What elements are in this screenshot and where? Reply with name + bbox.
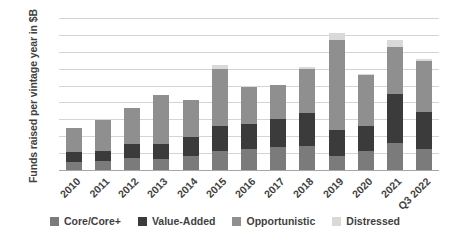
bar-stack[interactable]	[95, 120, 111, 170]
legend-item[interactable]: Value-Added	[138, 215, 216, 227]
legend-item[interactable]: Core/Core+	[50, 215, 121, 227]
legend-item[interactable]: Distressed	[332, 215, 400, 227]
x-axis-tick: 2014	[176, 171, 205, 209]
bar-segment	[416, 149, 432, 170]
bar-segment	[66, 128, 82, 152]
bar-segment	[66, 162, 82, 170]
bar-column	[410, 18, 439, 170]
legend-swatch-icon	[50, 217, 59, 226]
x-axis-tick-label: 2013	[145, 175, 170, 200]
x-axis-tick: 2012	[117, 171, 146, 209]
bar-column	[293, 18, 322, 170]
bar-segment	[124, 144, 140, 158]
x-axis-tick: 2020	[351, 171, 380, 209]
bar-segment	[153, 159, 169, 170]
bar-segment	[387, 47, 403, 94]
bar-segment	[183, 156, 199, 170]
y-axis-title: Funds raised per vintage year in $B	[27, 13, 39, 183]
bar-stack[interactable]	[66, 128, 82, 170]
bar-segment	[212, 126, 228, 151]
bar-stack[interactable]	[241, 86, 257, 170]
x-axis-tick: 2011	[88, 171, 117, 209]
bar-column	[381, 18, 410, 170]
x-axis-tick: 2019	[322, 171, 351, 209]
bar-segment	[299, 69, 315, 114]
legend-item[interactable]: Opportunistic	[232, 215, 315, 227]
bar-column	[264, 18, 293, 170]
bar-segment	[241, 124, 257, 149]
legend-swatch-icon	[138, 217, 147, 226]
bar-segment	[387, 143, 403, 170]
bar-segment	[387, 40, 403, 47]
bar-segment	[270, 147, 286, 170]
x-axis-tick: 2010	[59, 171, 88, 209]
bar-segment	[95, 151, 111, 160]
x-axis-tick-labels: 2010201120122013201420152016201720182019…	[59, 171, 439, 209]
legend-item-label: Opportunistic	[246, 215, 315, 227]
bar-stack[interactable]	[329, 33, 345, 170]
legend-item-label: Core/Core+	[64, 215, 121, 227]
bar-column	[205, 18, 234, 170]
bar-segment	[329, 156, 345, 170]
x-axis-tick-label: 2015	[203, 175, 228, 200]
bar-column	[322, 18, 351, 170]
bar-segment	[124, 158, 140, 170]
plot-area: 020406080100120140160180	[59, 18, 439, 170]
bar-segment	[299, 113, 315, 146]
bar-stack[interactable]	[299, 67, 315, 170]
bar-column	[351, 18, 380, 170]
bar-segment	[416, 61, 432, 112]
bar-segment	[183, 100, 199, 137]
bar-segment	[416, 112, 432, 149]
x-axis-tick-label: 2011	[87, 175, 112, 200]
bar-segment	[183, 137, 199, 156]
x-axis-tick: 2015	[205, 171, 234, 209]
x-axis-tick: 2018	[293, 171, 322, 209]
x-axis-tick: Q3 2022	[410, 171, 439, 209]
bar-segment	[329, 130, 345, 155]
bar-column	[88, 18, 117, 170]
bar-stack[interactable]	[416, 59, 432, 170]
x-axis-tick-label: 2019	[320, 175, 345, 200]
stacked-bar-chart: Funds raised per vintage year in $B 0204…	[0, 0, 450, 241]
bar-segment	[241, 149, 257, 170]
bar-stack[interactable]	[387, 40, 403, 170]
x-axis-tick-label: 2021	[379, 175, 404, 200]
bar-segment	[358, 75, 374, 126]
bar-stack[interactable]	[212, 65, 228, 170]
bar-stack[interactable]	[124, 108, 140, 170]
bar-segment	[358, 126, 374, 150]
x-axis-tick-label: 2012	[116, 175, 141, 200]
x-axis-tick-label: 2014	[174, 175, 199, 200]
bar-column	[176, 18, 205, 170]
bar-column	[147, 18, 176, 170]
x-axis-tick: 2016	[234, 171, 263, 209]
bar-segment	[329, 33, 345, 40]
bar-segment	[153, 95, 169, 144]
legend-swatch-icon	[332, 217, 341, 226]
bar-segment	[212, 151, 228, 170]
bar-series-group	[59, 18, 439, 170]
bar-segment	[358, 151, 374, 170]
bar-stack[interactable]	[153, 95, 169, 170]
bar-stack[interactable]	[183, 100, 199, 170]
bar-segment	[299, 146, 315, 170]
bar-segment	[212, 69, 228, 126]
x-axis-tick-label: 2017	[262, 175, 287, 200]
bar-column	[59, 18, 88, 170]
bar-segment	[270, 119, 286, 148]
x-axis-tick: 2017	[264, 171, 293, 209]
bar-stack[interactable]	[270, 85, 286, 170]
chart-legend: Core/Core+Value-AddedOpportunisticDistre…	[0, 215, 450, 227]
bar-segment	[387, 94, 403, 143]
bar-column	[234, 18, 263, 170]
x-axis-tick: 2013	[147, 171, 176, 209]
bar-segment	[66, 152, 82, 161]
legend-swatch-icon	[232, 217, 241, 226]
bar-segment	[124, 108, 140, 143]
legend-item-label: Value-Added	[152, 215, 216, 227]
bar-segment	[95, 120, 111, 151]
legend-item-label: Distressed	[346, 215, 400, 227]
x-axis-tick-label: 2016	[232, 175, 257, 200]
bar-stack[interactable]	[358, 74, 374, 170]
